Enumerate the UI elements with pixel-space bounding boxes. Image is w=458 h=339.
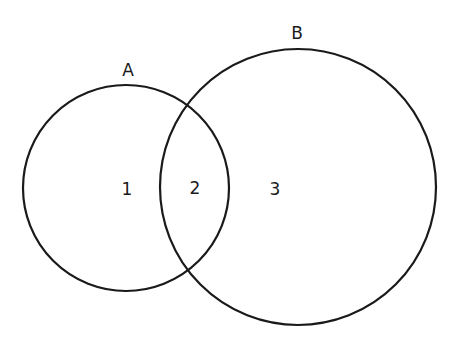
region-1-label: 1 <box>122 179 133 199</box>
region-2-label: 2 <box>190 178 201 198</box>
region-3-label: 3 <box>270 179 281 199</box>
set-b-circle <box>160 49 436 325</box>
set-b-label: B <box>291 23 303 43</box>
venn-diagram: A B 1 2 3 <box>0 0 458 339</box>
set-a-label: A <box>122 60 134 80</box>
